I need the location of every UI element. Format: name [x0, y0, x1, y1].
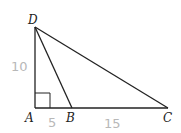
label-A: A	[24, 111, 34, 125]
measure-BC: 15	[104, 116, 121, 131]
measure-AB: 5	[48, 115, 56, 130]
segment-DB	[35, 27, 72, 108]
measure-DA: 10	[11, 59, 28, 74]
right-angle-marker	[35, 93, 50, 108]
label-B: B	[65, 111, 75, 125]
label-D: D	[27, 13, 38, 27]
segment-DC	[35, 27, 168, 108]
triangle-diagram: D A B C 10 5 15	[0, 0, 181, 133]
label-C: C	[163, 111, 172, 125]
